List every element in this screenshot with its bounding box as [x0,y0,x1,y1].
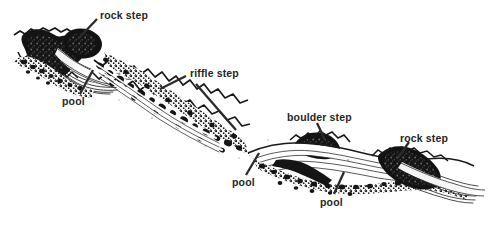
label-pool-left: pool [62,96,85,107]
label-riffle-step: riffle step [190,68,239,79]
stream-profile-figure: rock steppoolriffle steppoolboulder step… [0,0,489,226]
label-layer: rock steppoolriffle steppoolboulder step… [0,0,489,226]
label-boulder-step: boulder step [287,112,352,123]
label-rock-step-left: rock step [100,10,148,21]
label-rock-step-right: rock step [400,133,448,144]
label-pool-mid: pool [232,177,255,188]
label-pool-right: pool [320,197,343,208]
